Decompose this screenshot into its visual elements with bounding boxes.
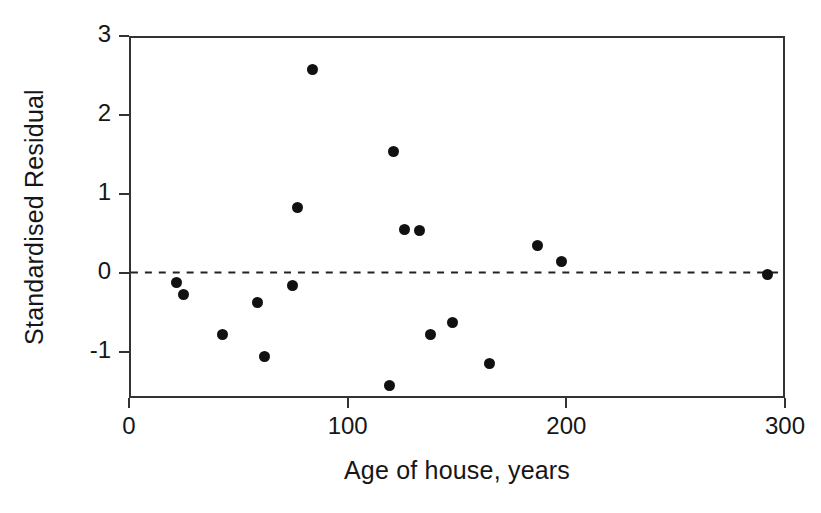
x-tick-label: 300 <box>735 412 821 440</box>
y-tick-label: 3 <box>37 20 111 48</box>
y-tick-mark <box>119 351 129 353</box>
data-point <box>425 329 436 340</box>
scatter-plot-figure: Standardised Residual Age of house, year… <box>0 0 821 513</box>
data-point <box>762 269 773 280</box>
data-point <box>414 225 425 236</box>
x-tick-label: 0 <box>79 412 179 440</box>
y-tick-label: -1 <box>37 336 111 364</box>
y-tick-mark <box>119 35 129 37</box>
x-tick-mark <box>347 398 349 408</box>
x-tick-mark <box>784 398 786 408</box>
y-tick-label: 2 <box>37 99 111 127</box>
y-tick-mark <box>119 272 129 274</box>
data-point <box>447 317 458 328</box>
y-tick-label: 1 <box>37 178 111 206</box>
plot-canvas <box>131 38 783 396</box>
data-point <box>399 224 410 235</box>
x-tick-mark <box>565 398 567 408</box>
data-point <box>292 202 303 213</box>
y-tick-mark <box>119 193 129 195</box>
x-tick-label: 100 <box>298 412 398 440</box>
y-tick-label: 0 <box>37 257 111 285</box>
x-axis-title: Age of house, years <box>129 456 785 485</box>
data-point <box>178 289 189 300</box>
y-tick-mark <box>119 114 129 116</box>
x-tick-label: 200 <box>516 412 616 440</box>
plot-area <box>129 36 785 398</box>
x-tick-mark <box>128 398 130 408</box>
data-point <box>384 380 395 391</box>
data-point <box>259 351 270 362</box>
